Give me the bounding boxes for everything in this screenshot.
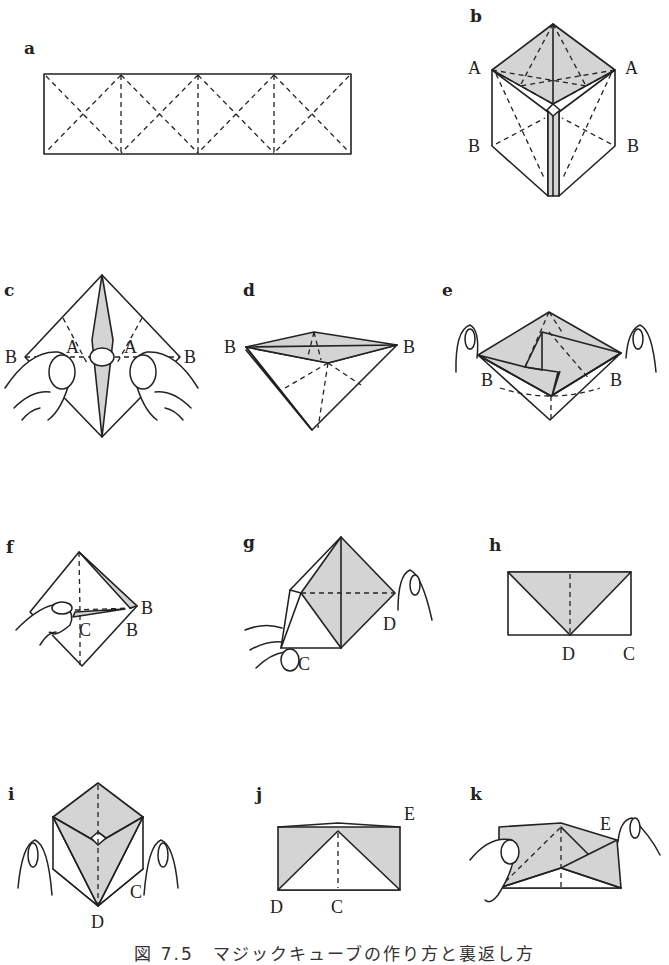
point-label-C: C xyxy=(298,654,310,674)
point-label-B-upper: B xyxy=(141,598,153,618)
point-label-B-right: B xyxy=(627,136,639,156)
panel-label-a: a xyxy=(24,38,35,58)
panel-label-f: f xyxy=(6,537,15,557)
panel-label-b: b xyxy=(470,6,482,26)
point-label-B-lower: B xyxy=(126,620,138,640)
panel-label-h: h xyxy=(489,535,501,555)
point-label-B-left: B xyxy=(468,136,480,156)
panel-a: a xyxy=(24,38,351,154)
panel-label-g: g xyxy=(243,532,255,552)
point-label-A-left: A xyxy=(66,337,79,357)
point-label-C: C xyxy=(331,897,343,917)
point-label-B-left: B xyxy=(5,347,17,367)
point-label-B-right: B xyxy=(610,370,622,390)
point-label-E: E xyxy=(600,814,611,834)
panel-k: k E xyxy=(470,784,660,902)
panel-label-e: e xyxy=(442,280,453,300)
panel-label-d: d xyxy=(243,280,255,300)
panel-j: j E D C xyxy=(254,784,415,917)
point-label-D: D xyxy=(91,912,104,932)
point-label-B-left: B xyxy=(224,337,236,357)
left-thumb-icon xyxy=(49,355,75,389)
point-label-C: C xyxy=(623,644,635,664)
point-label-C: C xyxy=(130,882,142,902)
panel-label-j: j xyxy=(254,784,262,804)
point-label-D: D xyxy=(562,644,575,664)
point-label-D: D xyxy=(270,897,283,917)
panel-h: h D C xyxy=(489,535,635,664)
panel-i: i C D xyxy=(8,783,178,932)
point-label-B-left: B xyxy=(481,370,493,390)
point-label-A-right: A xyxy=(124,337,137,357)
panel-c: c B A A B xyxy=(4,275,198,437)
panel-d: d B B xyxy=(224,280,415,430)
panel-f: f B C B xyxy=(6,537,153,666)
point-label-C: C xyxy=(79,620,91,640)
figure-caption: 図 7.5 マジックキューブの作り方と裏返し方 xyxy=(0,940,669,965)
point-label-D: D xyxy=(383,614,396,634)
point-label-A-left: A xyxy=(468,58,481,78)
right-thumb-icon xyxy=(130,355,156,389)
panel-label-k: k xyxy=(470,784,483,804)
panel-label-c: c xyxy=(4,280,14,300)
point-label-B-right: B xyxy=(184,347,196,367)
left-hand-icon xyxy=(245,625,285,668)
panel-label-i: i xyxy=(8,784,15,804)
point-label-E: E xyxy=(404,804,415,824)
panel-e: e B B xyxy=(442,280,656,420)
panel-b: b A A B B xyxy=(468,6,639,196)
point-label-B-right: B xyxy=(403,337,415,357)
panel-g: g D C xyxy=(243,532,432,674)
point-label-A-right: A xyxy=(625,58,638,78)
